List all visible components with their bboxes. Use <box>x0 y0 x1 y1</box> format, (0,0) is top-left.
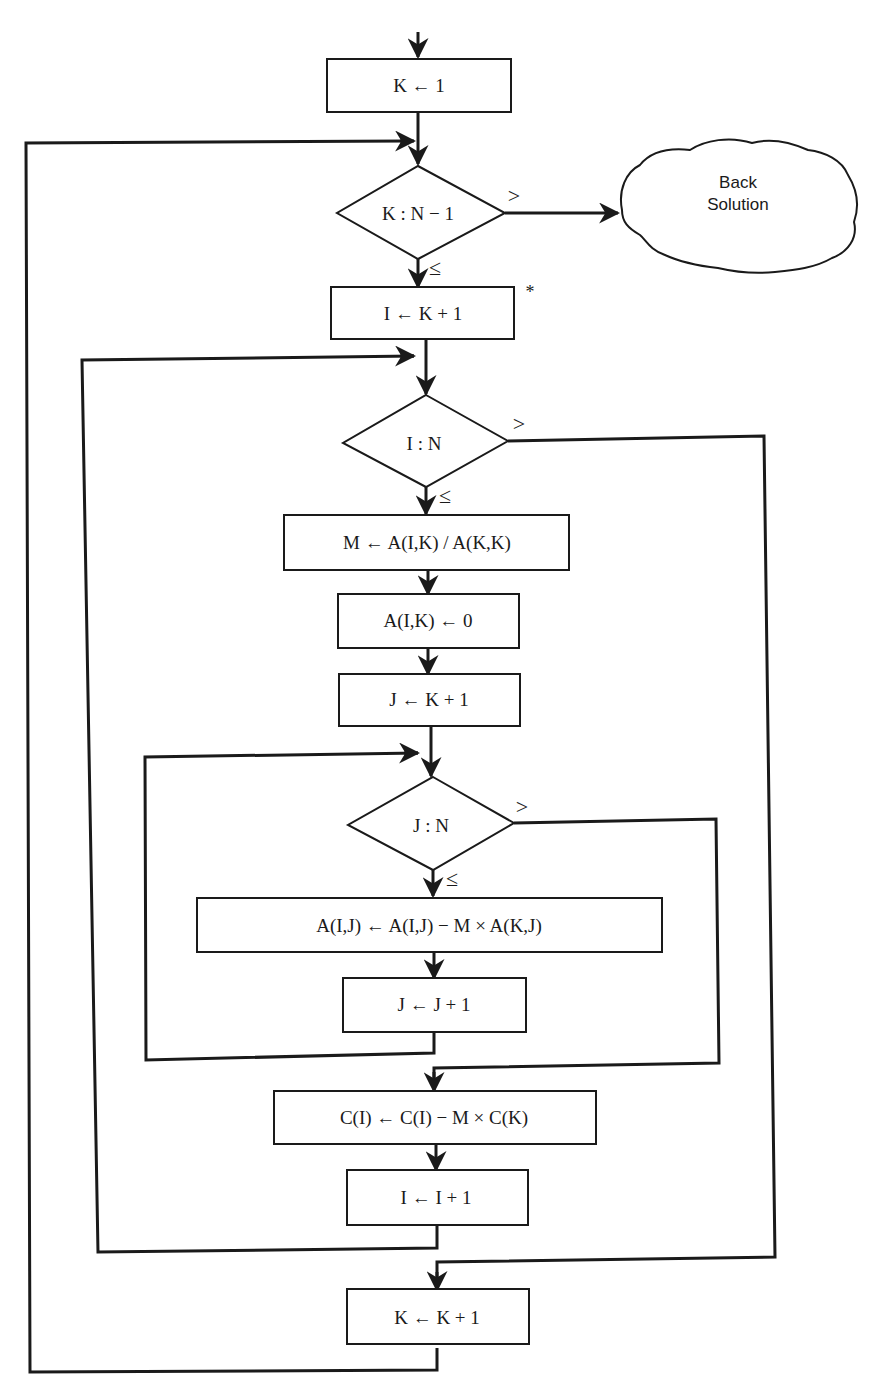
back-solution-line2: Solution <box>707 194 768 216</box>
compute-m-label: M ← A(I,K) / A(K,K) <box>343 532 511 554</box>
inc-j-label: J ← J + 1 <box>397 994 470 1016</box>
test-i-le-label: ≤ <box>439 483 451 509</box>
back-solution-line1: Back <box>707 172 768 194</box>
inc-i-label: I ← I + 1 <box>401 1187 472 1209</box>
zero-aik-label: A(I,K) ← 0 <box>383 610 472 632</box>
test-j-label: J : N <box>413 815 449 837</box>
init-i-asterisk: * <box>526 282 535 303</box>
test-k-label: K : N − 1 <box>382 203 454 225</box>
update-ci-label: C(I) ← C(I) − M × C(K) <box>340 1107 528 1129</box>
test-i-greater-label: > <box>513 411 525 437</box>
inc-k-label: K ← K + 1 <box>394 1307 480 1329</box>
test-j-greater-label: > <box>516 794 528 820</box>
test-k-le-label: ≤ <box>429 255 441 281</box>
test-i-label: I : N <box>407 433 442 455</box>
test-j-le-label: ≤ <box>446 866 458 892</box>
test-k-greater-label: > <box>508 183 520 209</box>
init-i-label: I ← K + 1 <box>384 303 462 325</box>
back-solution-label: Back Solution <box>707 172 768 216</box>
j-exit-path <box>434 819 719 1091</box>
init-k-label: K ← 1 <box>393 75 445 97</box>
update-aij-label: A(I,J) ← A(I,J) − M × A(K,J) <box>316 915 542 937</box>
init-j-label: J ← K + 1 <box>389 689 468 711</box>
